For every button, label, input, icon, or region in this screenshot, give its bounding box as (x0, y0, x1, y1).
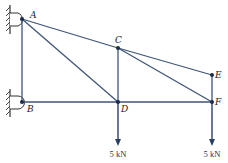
truss-members (22, 19, 212, 102)
node-b (20, 100, 24, 104)
load-label-d: 5 kN (110, 149, 127, 159)
node-f (210, 100, 214, 104)
member-ce (118, 48, 212, 75)
wall-support-a (6, 5, 22, 34)
node-label-c: C (115, 35, 122, 45)
node-a (20, 17, 24, 21)
node-label-b: B (26, 104, 34, 114)
truss-diagram: 5 kN 5 kN A B C D E F (0, 0, 228, 163)
member-ad (22, 19, 118, 102)
node-label-e: E (214, 70, 222, 80)
node-label-f: F (214, 97, 222, 107)
member-ac (22, 19, 118, 48)
load-label-f: 5 kN (204, 149, 221, 159)
node-label-d: D (120, 104, 128, 114)
node-c (116, 46, 120, 50)
member-cf (118, 48, 212, 102)
load-arrow-f (209, 102, 215, 146)
truss-nodes (20, 17, 214, 104)
node-e (210, 73, 214, 77)
node-label-a: A (29, 10, 37, 20)
node-d (116, 100, 120, 104)
